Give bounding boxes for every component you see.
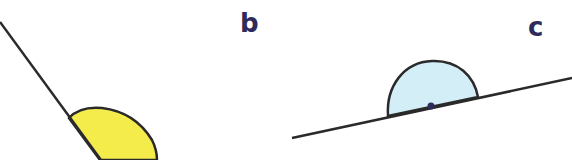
ray-line-left: [0, 22, 101, 160]
vertex-dot: [428, 103, 435, 110]
angle-diagram: [0, 0, 572, 160]
label-b: b: [240, 10, 259, 36]
label-c: c: [528, 14, 543, 40]
